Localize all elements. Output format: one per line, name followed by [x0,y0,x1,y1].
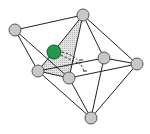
node-bottom [85,112,97,124]
node-lower-left [32,65,44,77]
green-atom [47,45,61,59]
polyhedron-diagram [0,0,150,134]
edge-line [15,30,38,71]
node-right [131,58,143,70]
node-left [9,24,21,36]
node-top [77,9,89,21]
dopant-atom [47,45,61,59]
edge-line [69,78,91,118]
node-lower-center [63,72,75,84]
node-mid-right [98,52,110,64]
edge-line [91,58,104,118]
edge-line [83,15,104,58]
